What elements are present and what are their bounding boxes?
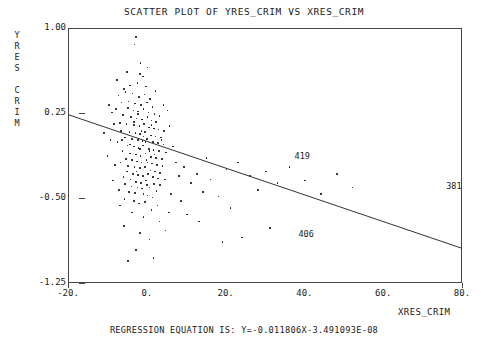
point-label: 406 bbox=[298, 229, 313, 239]
data-point bbox=[156, 164, 158, 166]
data-point bbox=[163, 130, 165, 132]
data-point bbox=[159, 172, 161, 174]
data-point bbox=[183, 166, 185, 168]
data-point bbox=[230, 207, 232, 209]
data-point bbox=[120, 130, 122, 132]
data-point bbox=[165, 152, 167, 154]
data-point bbox=[155, 157, 157, 159]
data-point bbox=[159, 184, 161, 186]
data-point bbox=[133, 124, 135, 126]
x-tick-label: 0. bbox=[141, 288, 152, 298]
data-point bbox=[129, 153, 131, 155]
data-point bbox=[144, 201, 146, 203]
data-point bbox=[133, 200, 135, 202]
data-point bbox=[140, 104, 142, 106]
data-point bbox=[126, 71, 128, 73]
data-point bbox=[152, 176, 154, 178]
data-point bbox=[139, 148, 141, 150]
data-point bbox=[128, 191, 130, 193]
data-point bbox=[135, 181, 137, 183]
data-point bbox=[123, 225, 125, 227]
data-point bbox=[159, 115, 161, 117]
data-point bbox=[103, 132, 105, 134]
data-point bbox=[121, 139, 123, 141]
point-label: 381 bbox=[446, 181, 461, 191]
data-point bbox=[140, 182, 142, 184]
x-tick-label: -20. bbox=[57, 288, 79, 298]
data-point bbox=[133, 121, 135, 123]
data-point bbox=[149, 98, 151, 100]
data-point bbox=[190, 182, 192, 184]
data-point bbox=[122, 150, 124, 152]
data-point bbox=[131, 212, 133, 214]
x-axis-label: XRES_CRIM bbox=[398, 307, 450, 317]
data-point bbox=[138, 203, 140, 205]
data-point bbox=[158, 150, 160, 152]
data-point bbox=[157, 142, 159, 144]
data-point bbox=[146, 138, 148, 140]
data-point bbox=[138, 96, 140, 98]
data-point bbox=[257, 189, 259, 191]
scatter-plot-page: SCATTER PLOT OF YRES_CRIM VS XRES_CRIM Y… bbox=[0, 0, 488, 344]
data-point bbox=[130, 116, 132, 118]
data-point bbox=[146, 102, 148, 104]
data-point bbox=[137, 174, 139, 176]
data-point bbox=[114, 164, 116, 166]
data-point bbox=[127, 260, 129, 262]
data-point bbox=[144, 131, 146, 133]
data-point bbox=[144, 166, 146, 168]
data-point bbox=[137, 82, 139, 84]
x-tick-label: 80. bbox=[454, 288, 470, 298]
data-point bbox=[127, 165, 129, 167]
data-point bbox=[132, 173, 134, 175]
x-axis-ticks: -20.0.20.40.60.80. bbox=[0, 0, 488, 344]
data-point bbox=[178, 175, 180, 177]
data-point bbox=[152, 106, 154, 108]
data-point bbox=[320, 193, 322, 195]
data-point bbox=[136, 161, 138, 163]
data-point bbox=[113, 123, 115, 125]
data-point bbox=[289, 166, 291, 168]
data-point bbox=[115, 108, 117, 110]
data-point bbox=[142, 175, 144, 177]
data-point bbox=[161, 139, 163, 141]
data-point bbox=[153, 183, 155, 185]
x-tick-label: 40. bbox=[296, 288, 312, 298]
data-point bbox=[241, 237, 243, 239]
data-point bbox=[116, 79, 118, 81]
data-point bbox=[124, 183, 126, 185]
data-point bbox=[119, 122, 121, 124]
data-point bbox=[118, 189, 120, 191]
data-point bbox=[196, 173, 198, 175]
data-point bbox=[150, 156, 152, 158]
data-point bbox=[137, 139, 139, 141]
data-point bbox=[131, 138, 133, 140]
data-point bbox=[269, 227, 271, 229]
data-point bbox=[152, 141, 154, 143]
data-point bbox=[155, 121, 157, 123]
data-point bbox=[126, 123, 128, 125]
point-label: 419 bbox=[295, 151, 310, 161]
data-point bbox=[139, 232, 141, 234]
data-point bbox=[139, 125, 141, 127]
data-point bbox=[139, 73, 141, 75]
x-tick-mark bbox=[68, 283, 69, 288]
data-point bbox=[137, 113, 139, 115]
data-point bbox=[147, 173, 149, 175]
data-point bbox=[134, 192, 136, 194]
data-point bbox=[146, 184, 148, 186]
data-point bbox=[161, 158, 163, 160]
data-point bbox=[139, 133, 141, 135]
data-point bbox=[135, 249, 137, 251]
data-point bbox=[125, 158, 127, 160]
data-point bbox=[249, 175, 251, 177]
data-point bbox=[202, 191, 204, 193]
data-point bbox=[129, 144, 131, 146]
x-tick-label: 60. bbox=[375, 288, 391, 298]
data-point bbox=[163, 104, 165, 106]
data-point bbox=[143, 123, 145, 125]
data-point bbox=[336, 173, 338, 175]
data-point bbox=[107, 155, 109, 157]
data-point bbox=[135, 132, 137, 134]
data-point bbox=[222, 241, 224, 243]
